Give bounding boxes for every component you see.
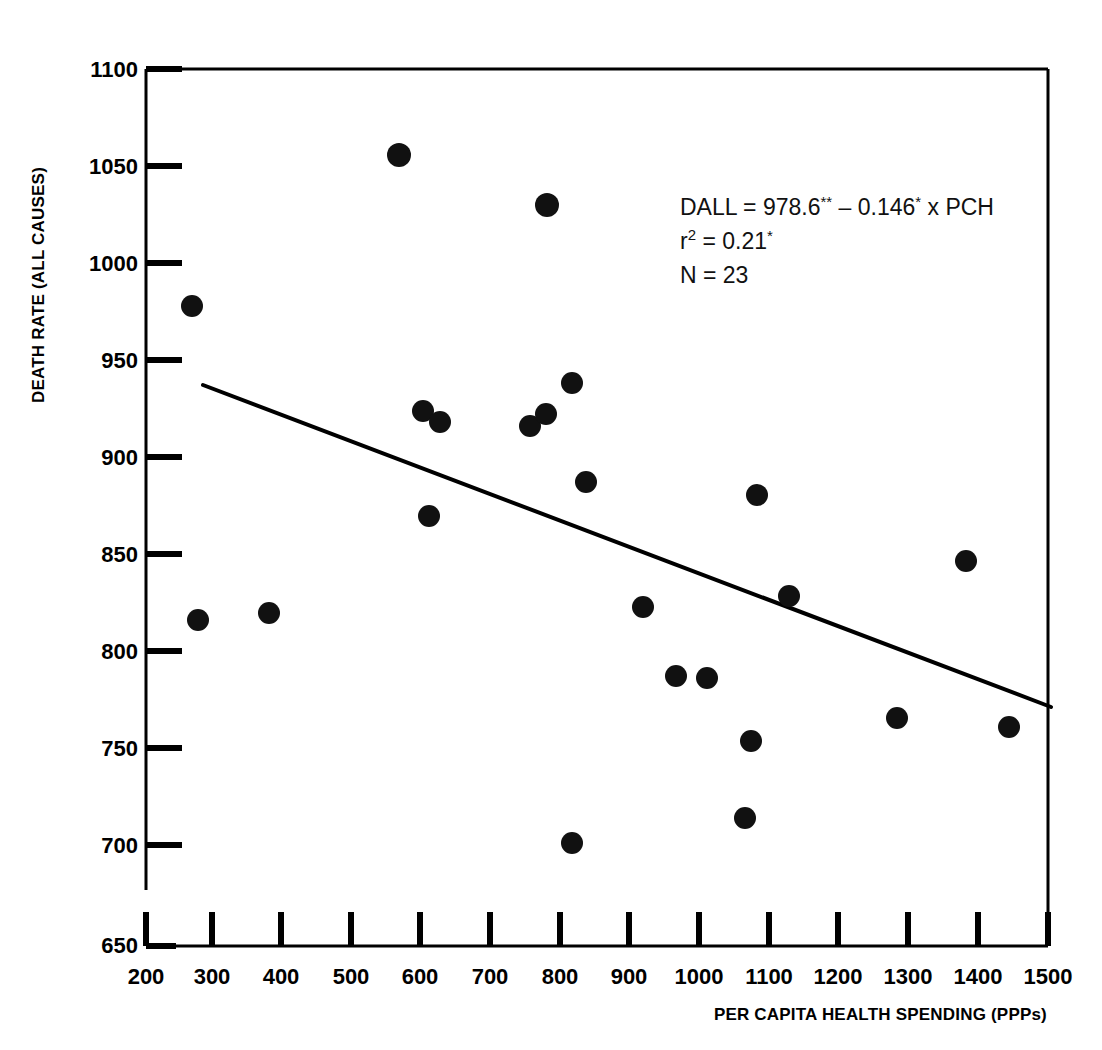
data-point [258, 602, 280, 624]
x-axis-title: PER CAPITA HEALTH SPENDING (PPPs) [714, 1005, 1047, 1024]
y-tick-label-800: 800 [101, 639, 138, 664]
y-axis-ticks [146, 69, 182, 845]
data-point [696, 667, 718, 689]
annotation-r2-line: r2 = 0.21* [680, 226, 773, 254]
y-tick-labels: 1100 1050 1000 950 900 850 800 750 700 6… [89, 57, 138, 958]
data-point [740, 730, 762, 752]
x-tick-label-1500: 1500 [1024, 964, 1073, 989]
data-point [778, 585, 800, 607]
data-point [734, 807, 756, 829]
y-tick-label-850: 850 [101, 542, 138, 567]
annotation-r2-sup: 2 [688, 226, 696, 243]
annotation-n-line: N = 23 [680, 262, 748, 288]
y-tick-label-900: 900 [101, 445, 138, 470]
data-point [886, 707, 908, 729]
data-point [418, 505, 440, 527]
data-point [955, 550, 977, 572]
data-point [535, 193, 559, 217]
regression-line [203, 385, 1051, 707]
y-tick-label-1050: 1050 [89, 154, 138, 179]
annotation-r2-star: * [767, 227, 773, 244]
annotation-eq-mid: – 0.146 [832, 194, 915, 220]
data-point [535, 403, 557, 425]
x-tick-label-400: 400 [263, 964, 300, 989]
data-point [387, 143, 411, 167]
data-point [561, 372, 583, 394]
x-tick-label-700: 700 [472, 964, 509, 989]
data-point [998, 716, 1020, 738]
data-point [575, 471, 597, 493]
y-tick-label-700: 700 [101, 833, 138, 858]
y-tick-label-950: 950 [101, 348, 138, 373]
x-tick-label-500: 500 [333, 964, 370, 989]
y-tick-label-650: 650 [101, 933, 138, 958]
x-tick-label-1300: 1300 [884, 964, 933, 989]
x-tick-label-1000: 1000 [675, 964, 724, 989]
x-tick-label-900: 900 [611, 964, 648, 989]
data-point [429, 411, 451, 433]
scatter-plot-figure: 1100 1050 1000 950 900 850 800 750 700 6… [0, 0, 1102, 1050]
x-tick-label-800: 800 [542, 964, 579, 989]
x-tick-labels: 200 300 400 500 600 700 800 900 1000 110… [128, 964, 1073, 989]
x-axis-ticks [212, 912, 1048, 946]
annotation-equation-line: DALL = 978.6** – 0.146* x PCH [680, 193, 994, 220]
x-tick-label-1200: 1200 [814, 964, 863, 989]
data-point [187, 609, 209, 631]
annotation-eq-suffix: x PCH [921, 194, 994, 220]
x-tick-label-1400: 1400 [954, 964, 1003, 989]
annotation-r2-rest: = 0.21 [696, 228, 767, 254]
y-tick-label-1100: 1100 [90, 57, 138, 82]
y-tick-label-1000: 1000 [89, 251, 138, 276]
data-point [561, 832, 583, 854]
data-point [746, 484, 768, 506]
x-tick-label-1100: 1100 [745, 964, 793, 989]
chart-svg: 1100 1050 1000 950 900 850 800 750 700 6… [0, 0, 1102, 1050]
y-axis-title: DEATH RATE (ALL CAUSES) [29, 167, 48, 403]
annotation-eq-star1: ** [820, 193, 832, 210]
x-tick-label-600: 600 [402, 964, 439, 989]
annotation-eq-prefix: DALL = 978.6 [680, 194, 820, 220]
x-tick-label-200: 200 [128, 964, 165, 989]
data-point [181, 295, 203, 317]
x-tick-label-300: 300 [194, 964, 231, 989]
data-point [632, 596, 654, 618]
data-point [665, 665, 687, 687]
y-tick-label-750: 750 [101, 736, 138, 761]
data-points-group [181, 143, 1020, 854]
regression-annotation: DALL = 978.6** – 0.146* x PCH r2 = 0.21*… [680, 193, 994, 288]
